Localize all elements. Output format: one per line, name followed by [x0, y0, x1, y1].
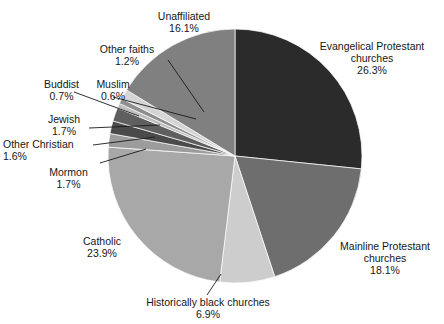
pie-chart-page: Evangelical Protestant churches 26.3% Ma… [0, 0, 444, 324]
slice-label-evangelical: Evangelical Protestant churches 26.3% [308, 40, 436, 77]
slice-value-evangelical: 26.3% [308, 64, 436, 76]
slice-label-historically-black: Historically black churches 6.9% [133, 296, 283, 320]
slice-value-unaffiliated: 16.1% [136, 22, 232, 34]
slice-label-catholic-line1: Catholic [66, 235, 138, 247]
slice-label-muslim: Muslim 0.6% [87, 78, 139, 102]
slice-label-muslim-line1: Muslim [87, 78, 139, 90]
slice-label-other-faiths: Other faiths 1.2% [87, 43, 167, 67]
slice-label-other-christian-line1: Other Christian [3, 138, 95, 150]
slice-label-jewish-line1: Jewish [38, 113, 90, 125]
slice-label-mainline-line2: churches [326, 252, 444, 264]
slice-label-evangelical-line2: churches [308, 52, 436, 64]
slice-label-mormon: Mormon 1.7% [37, 166, 100, 190]
slice-label-unaffiliated-line1: Unaffiliated [136, 10, 232, 22]
slice-label-buddist: Buddist 0.7% [34, 78, 89, 102]
slice-label-evangelical-line1: Evangelical Protestant [308, 40, 436, 52]
slice-value-other-faiths: 1.2% [87, 55, 167, 67]
slice-label-historically-black-line1: Historically black churches [133, 296, 283, 308]
slice-value-mainline: 18.1% [326, 264, 444, 276]
slice-value-jewish: 1.7% [38, 125, 90, 137]
slice-value-muslim: 0.6% [87, 90, 139, 102]
pie-slice[interactable] [108, 147, 235, 282]
slice-value-buddist: 0.7% [34, 90, 89, 102]
slice-value-mormon: 1.7% [37, 178, 100, 190]
slice-value-other-christian: 1.6% [3, 150, 95, 162]
slice-label-other-faiths-line1: Other faiths [87, 43, 167, 55]
slice-label-buddist-line1: Buddist [34, 78, 89, 90]
slice-label-jewish: Jewish 1.7% [38, 113, 90, 137]
slice-value-historically-black: 6.9% [133, 308, 283, 320]
slice-value-catholic: 23.9% [66, 247, 138, 259]
slice-label-catholic: Catholic 23.9% [66, 235, 138, 259]
slice-label-other-christian: Other Christian 1.6% [3, 138, 95, 162]
slice-label-unaffiliated: Unaffiliated 16.1% [136, 10, 232, 34]
slice-label-mainline: Mainline Protestant churches 18.1% [326, 240, 444, 277]
slice-label-mormon-line1: Mormon [37, 166, 100, 178]
slice-label-mainline-line1: Mainline Protestant [326, 240, 444, 252]
